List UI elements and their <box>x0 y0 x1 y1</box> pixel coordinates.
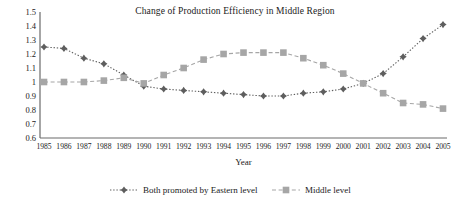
data-point-marker <box>41 79 48 86</box>
chart-plot-area: 1.51.41.31.21.110.90.80.70.6 19851986198… <box>0 0 458 206</box>
y-axis: 1.51.41.31.21.110.90.80.70.6 <box>25 7 40 143</box>
data-point-marker <box>140 80 147 87</box>
y-tick-label: 0.8 <box>25 105 36 115</box>
data-point-marker <box>320 88 327 95</box>
x-tick-label: 1996 <box>256 142 271 151</box>
y-tick-label: 0.6 <box>25 133 36 143</box>
data-point-marker <box>280 49 287 56</box>
data-point-marker <box>61 79 68 86</box>
y-tick-label: 1.2 <box>25 49 36 59</box>
data-point-marker <box>160 85 167 92</box>
y-tick-label: 1.3 <box>25 35 36 45</box>
data-point-marker <box>260 49 267 56</box>
x-axis: 1985198619871988198919901991199219931994… <box>36 138 450 151</box>
legend-marker <box>120 186 127 193</box>
data-point-marker <box>320 62 327 69</box>
x-tick-label: 2001 <box>356 142 371 151</box>
data-point-marker <box>40 43 47 50</box>
data-point-marker <box>380 90 387 97</box>
chart-legend: Both promoted by Eastern levelMiddle lev… <box>110 185 351 195</box>
y-tick-label: 1.1 <box>25 63 36 73</box>
data-point-marker <box>300 55 307 62</box>
data-point-marker <box>240 49 247 56</box>
data-point-marker <box>60 45 67 52</box>
y-tick-label: 1 <box>32 77 36 87</box>
data-point-marker <box>160 72 167 79</box>
data-point-marker <box>200 56 207 63</box>
x-tick-label: 1990 <box>136 142 151 151</box>
x-tick-label: 1997 <box>276 142 291 151</box>
data-point-marker <box>439 21 446 28</box>
x-tick-label: 2004 <box>415 142 430 151</box>
x-axis-title-label: Year <box>235 157 252 167</box>
data-point-marker <box>220 51 227 58</box>
x-tick-label: 1994 <box>216 142 231 151</box>
data-point-marker <box>400 100 407 107</box>
data-point-marker <box>420 101 427 108</box>
data-point-marker <box>220 90 227 97</box>
legend-item-label: Both promoted by Eastern level <box>143 185 258 195</box>
data-point-marker <box>340 70 347 77</box>
data-point-marker <box>440 105 447 112</box>
x-tick-label: 1999 <box>316 142 331 151</box>
data-point-marker <box>419 35 426 42</box>
x-tick-label: 1987 <box>76 142 91 151</box>
data-point-marker <box>101 77 108 84</box>
data-point-marker <box>180 65 187 72</box>
legend-item-label: Middle level <box>305 185 351 195</box>
legend-marker <box>283 187 290 194</box>
data-series-group <box>40 21 446 112</box>
data-point-marker <box>121 75 128 82</box>
data-point-marker <box>360 80 367 87</box>
data-point-marker <box>100 60 107 67</box>
x-tick-label: 1991 <box>156 142 171 151</box>
data-point-marker <box>260 92 267 99</box>
y-tick-label: 1.4 <box>25 21 36 31</box>
x-tick-label: 2002 <box>376 142 391 151</box>
data-point-marker <box>280 92 287 99</box>
data-point-marker <box>80 55 87 62</box>
y-tick-label: 1.5 <box>25 7 36 17</box>
x-tick-label: 2003 <box>396 142 411 151</box>
x-tick-label: 1988 <box>96 142 111 151</box>
x-tick-label: 2005 <box>435 142 450 151</box>
data-point-marker <box>240 91 247 98</box>
x-tick-label: 1986 <box>56 142 71 151</box>
data-point-marker <box>81 79 88 86</box>
x-tick-label: 2000 <box>336 142 351 151</box>
data-point-marker <box>180 87 187 94</box>
y-tick-label: 0.7 <box>25 119 36 129</box>
x-tick-label: 1985 <box>36 142 51 151</box>
y-tick-label: 0.9 <box>25 91 36 101</box>
x-tick-label: 1989 <box>116 142 131 151</box>
data-point-marker <box>340 85 347 92</box>
x-tick-label: 1993 <box>196 142 211 151</box>
x-tick-label: 1995 <box>236 142 251 151</box>
x-axis-title: Year <box>235 157 252 167</box>
data-point-marker <box>200 88 207 95</box>
chart-container: Change of Production Efficiency in Middl… <box>0 0 458 206</box>
x-tick-label: 1992 <box>176 142 191 151</box>
data-point-marker <box>300 90 307 97</box>
x-tick-label: 1998 <box>296 142 311 151</box>
